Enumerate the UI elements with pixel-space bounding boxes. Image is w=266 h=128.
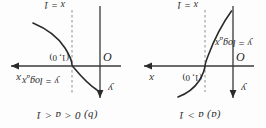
panel-b-curve-label: y = logax (22, 73, 59, 86)
panel-b-x-axis-label: x (16, 73, 21, 84)
panel-a-log-curve (178, 11, 232, 97)
panel-a-dashed-line-label: x = 1 (177, 0, 198, 10)
panel-a-y-axis-arrowhead (230, 90, 237, 98)
panel-a-x-axis-label: x (149, 73, 154, 84)
panel-a-curve-label-main: y = log (223, 38, 252, 49)
panel-a-curve-label: y = logax (215, 35, 252, 48)
panel-b-y-axis-arrowhead (97, 90, 104, 98)
panel-b-point-label: (1, 0) (50, 53, 70, 62)
panel-a-plot: x y O (1, 0) x = 1 y = logax (133, 0, 266, 106)
panel-b-curve-label-main: y = log (30, 76, 59, 87)
panel-b-x-axis-arrowhead (11, 63, 19, 70)
panel-a-graph: (a) a > 1 x y O (1, 0) x = 1 (133, 0, 266, 128)
panel-b-curve-label-base: a (27, 73, 31, 81)
panel-a-curve-label-base: a (220, 35, 224, 43)
panel-b-curve-label-arg: x (22, 76, 26, 87)
figure-container: (a) a > 1 x y O (1, 0) x = 1 (0, 0, 266, 128)
panel-a-svg (133, 0, 266, 106)
panel-b-title: (b) 0 < a < 1 (0, 110, 133, 122)
panel-a-y-axis-label: y (241, 83, 246, 94)
panel-b-graph: (b) 0 < a < 1 x y O (1, 0) x = 1 (0, 0, 133, 128)
panel-b-y-axis-label: y (108, 83, 113, 94)
panel-b-plot: x y O (1, 0) x = 1 y = logax (0, 0, 133, 106)
panel-a-title: (a) a > 1 (133, 110, 266, 122)
panel-a-x-axis-arrowhead (144, 63, 152, 70)
panel-b-origin-label: O (103, 51, 112, 63)
panel-a-origin-label: O (236, 51, 245, 63)
panel-a-curve-label-arg: x (215, 38, 219, 49)
panel-b-dashed-line-label: x = 1 (44, 0, 65, 10)
panel-a-point-label: (1, 0) (183, 73, 203, 82)
